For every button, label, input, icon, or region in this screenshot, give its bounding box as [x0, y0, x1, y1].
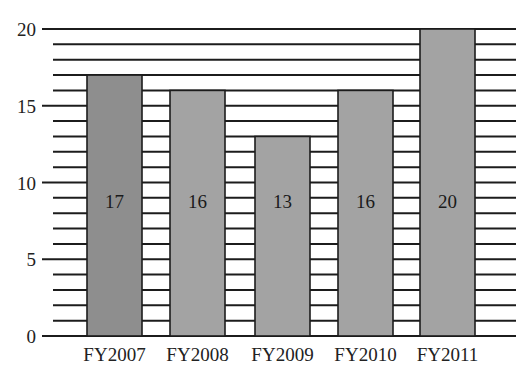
bar-value-label: 13 — [273, 191, 292, 212]
bar-value-label: 20 — [438, 191, 457, 212]
y-tick-label: 10 — [17, 173, 36, 194]
y-axis-tick-labels: 05101520 — [17, 19, 36, 347]
x-category-label: FY2007 — [83, 344, 145, 365]
y-tick-label: 20 — [17, 19, 36, 40]
bar-fy2010 — [338, 90, 393, 336]
x-axis-category-labels: FY2007FY2008FY2009FY2010FY2011 — [83, 344, 478, 365]
bar-value-label: 16 — [356, 191, 375, 212]
bar-value-label: 17 — [105, 191, 124, 212]
bar-fy2009 — [255, 136, 310, 336]
y-tick-label: 15 — [17, 96, 36, 117]
y-tick-label: 0 — [27, 326, 37, 347]
x-category-label: FY2008 — [166, 344, 228, 365]
bar-value-label: 16 — [188, 191, 207, 212]
bar-chart: 05101520 1716131620 FY2007FY2008FY2009FY… — [0, 0, 530, 382]
x-category-label: FY2009 — [251, 344, 313, 365]
bar-fy2011 — [420, 29, 475, 336]
x-category-label: FY2011 — [417, 344, 479, 365]
bar-fy2008 — [170, 90, 225, 336]
x-category-label: FY2010 — [334, 344, 396, 365]
y-tick-label: 5 — [27, 249, 37, 270]
